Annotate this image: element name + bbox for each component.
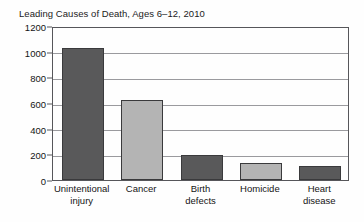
plot-area <box>52 27 349 181</box>
x-tick-label: Cancer <box>111 183 170 195</box>
x-tick-label: Birth defects <box>171 183 230 206</box>
bar <box>181 155 223 180</box>
x-tick-label: Homicide <box>230 183 289 195</box>
x-tick-label: Heart disease <box>290 183 349 206</box>
bars-group <box>53 28 348 180</box>
bar <box>240 163 282 180</box>
chart-title: Leading Causes of Death, Ages 6–12, 2010 <box>19 8 205 19</box>
bar <box>299 166 341 180</box>
bar <box>62 48 104 180</box>
x-axis-tick-labels: Unintentional injuryCancerBirth defectsH… <box>52 183 349 221</box>
x-tick-label: Unintentional injury <box>52 183 111 206</box>
bar <box>121 100 163 180</box>
bar-chart: Leading Causes of Death, Ages 6–12, 2010… <box>0 0 364 222</box>
